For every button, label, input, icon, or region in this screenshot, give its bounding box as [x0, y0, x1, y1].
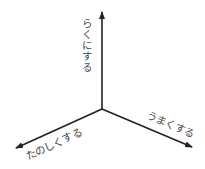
axis-up-label: らくにする — [80, 18, 92, 73]
axis-right: うまくする — [102, 109, 196, 147]
axis-up: らくにする — [80, 12, 102, 109]
axis-left: たのしくする — [16, 109, 102, 162]
axis-right-label: うまくする — [145, 109, 196, 140]
three-axis-diagram: らくにする たのしくする うまくする — [0, 0, 205, 169]
